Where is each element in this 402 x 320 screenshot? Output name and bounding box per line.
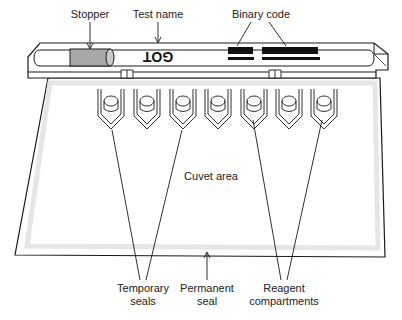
clip-left — [121, 70, 133, 78]
label-reagent-compartments-line2: compartments — [249, 295, 319, 308]
label-permanent-seal: Permanent seal — [180, 282, 234, 308]
cuvet-body — [15, 78, 385, 257]
binary-code — [228, 47, 320, 60]
clip-right — [269, 70, 281, 78]
printed-test-name: GOT — [142, 49, 173, 65]
label-reagent-compartments: Reagent compartments — [249, 282, 319, 308]
label-cuvet-area: Cuvet area — [184, 170, 238, 183]
label-temporary-seals-line2: seals — [117, 295, 169, 308]
label-temporary-seals-line1: Temporary — [117, 282, 169, 295]
label-stopper: Stopper — [71, 8, 110, 21]
label-permanent-seal-line2: seal — [180, 295, 234, 308]
stopper — [70, 49, 114, 66]
label-temporary-seals: Temporary seals — [117, 282, 169, 308]
label-reagent-compartments-line1: Reagent — [249, 282, 319, 295]
label-binary-code: Binary code — [232, 8, 290, 21]
label-test-name: Test name — [133, 8, 184, 21]
label-permanent-seal-line1: Permanent — [180, 282, 234, 295]
cuvet-diagram: GOT — [0, 0, 402, 320]
